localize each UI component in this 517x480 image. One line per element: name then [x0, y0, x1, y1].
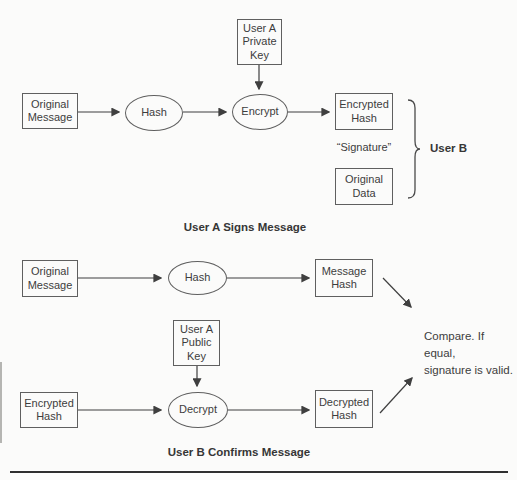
user-b-brace — [408, 100, 420, 198]
node-decrypt: Decrypt — [168, 392, 228, 428]
caption-user-a-signs-message: User A Signs Message — [170, 221, 320, 233]
node-hash-bottom-label: Hash — [185, 271, 211, 285]
node-user-a-public-key: User A Public Key — [173, 320, 220, 366]
node-encrypted-hash-bottom-label: Encrypted Hash — [24, 397, 74, 424]
node-original-message-top-label: Original Message — [28, 98, 73, 125]
node-original-message-top: Original Message — [22, 93, 78, 129]
node-user-a-private-key-label: User A Private Key — [242, 22, 276, 63]
compare-note: Compare. If equal, signature is valid. — [424, 328, 517, 379]
arrow-message-hash-to-compare — [383, 278, 411, 307]
node-original-message-bottom-label: Original Message — [28, 265, 73, 292]
node-hash-bottom: Hash — [168, 261, 227, 295]
node-original-data-label: Original Data — [345, 173, 383, 200]
node-decrypt-label: Decrypt — [179, 403, 217, 417]
digital-signature-diagram: Original Message Hash User A Private Key… — [0, 0, 517, 480]
bottom-rule — [10, 471, 508, 473]
node-user-a-private-key: User A Private Key — [237, 19, 282, 65]
node-message-hash-label: Message Hash — [322, 265, 367, 292]
signature-label: “Signature” — [330, 141, 398, 155]
node-user-a-public-key-label: User A Public Key — [180, 323, 213, 364]
caption-user-b-confirms-message: User B Confirms Message — [159, 446, 319, 458]
node-hash-top-label: Hash — [141, 106, 167, 120]
node-encrypt-label: Encrypt — [241, 105, 278, 119]
node-encrypted-hash-bottom: Encrypted Hash — [20, 392, 78, 428]
node-decrypted-hash: Decrypted Hash — [315, 390, 373, 428]
node-encrypt: Encrypt — [232, 94, 288, 130]
page-edge-artifact — [0, 362, 2, 443]
node-original-message-bottom: Original Message — [22, 260, 78, 297]
node-decrypted-hash-label: Decrypted Hash — [319, 396, 369, 423]
arrow-decrypted-hash-to-compare — [380, 378, 412, 413]
user-b-label: User B — [430, 142, 467, 156]
node-hash-top: Hash — [125, 95, 183, 131]
node-original-data: Original Data — [335, 168, 393, 205]
node-encrypted-hash-top: Encrypted Hash — [335, 93, 393, 130]
node-encrypted-hash-top-label: Encrypted Hash — [339, 98, 389, 125]
node-message-hash: Message Hash — [315, 259, 373, 297]
